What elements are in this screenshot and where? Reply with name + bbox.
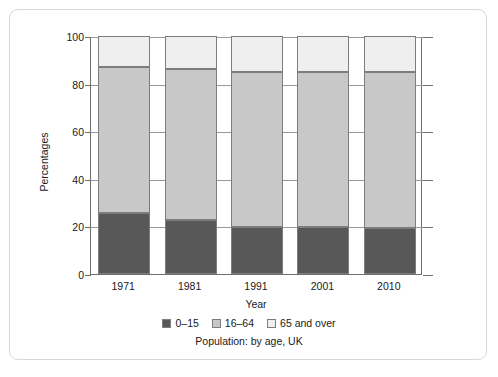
y-axis-tick-label: 0: [20, 269, 84, 281]
legend-swatch-icon: [212, 319, 221, 328]
legend-item: 65 and over: [267, 317, 335, 329]
bar-2010: [364, 36, 416, 274]
y-axis-tick-right: [423, 85, 433, 86]
legend-swatch-icon: [162, 319, 171, 328]
y-axis-tick: [85, 37, 91, 38]
y-axis-tick-right: [423, 132, 433, 133]
legend-item: 0–15: [162, 317, 198, 329]
bar-segment: [364, 72, 416, 228]
y-axis-tick: [85, 275, 91, 276]
bar-segment: [165, 220, 217, 274]
y-axis-tick-label: 100: [20, 31, 84, 43]
y-axis-tick-right: [423, 227, 433, 228]
legend-label: 0–15: [175, 317, 198, 329]
chart-card: Percentages 020406080100 197119811991200…: [9, 9, 487, 360]
plot-area: [90, 37, 422, 275]
y-axis-tick-label: 40: [20, 174, 84, 186]
bar-1971: [98, 36, 150, 274]
legend-label: 65 and over: [280, 317, 335, 329]
bar-segment: [297, 36, 349, 72]
x-axis-title: Year: [90, 298, 422, 310]
legend-item: 16–64: [212, 317, 254, 329]
bar-segment: [231, 36, 283, 72]
y-axis-tick-right: [423, 180, 433, 181]
bar-segment: [297, 227, 349, 274]
chart-figure: Percentages 020406080100 197119811991200…: [10, 10, 488, 361]
y-axis-tick-right: [423, 275, 433, 276]
bar-2001: [297, 36, 349, 274]
y-axis-tick: [85, 227, 91, 228]
bar-segment: [231, 72, 283, 227]
y-axis-tick: [85, 132, 91, 133]
chart-caption: Population: by age, UK: [10, 335, 488, 347]
bar-segment: [364, 36, 416, 72]
y-axis-tick-label: 20: [20, 221, 84, 233]
bar-segment: [297, 72, 349, 227]
chart-legend: 0–1516–6465 and over: [10, 317, 488, 329]
bar-segment: [98, 36, 150, 67]
bar-segment: [165, 69, 217, 220]
legend-label: 16–64: [225, 317, 254, 329]
bar-segment: [98, 213, 150, 274]
y-axis-tick: [85, 180, 91, 181]
y-axis-tick-label: 80: [20, 79, 84, 91]
y-axis-tick: [85, 85, 91, 86]
bar-segment: [98, 67, 150, 213]
x-axis-tick-label: 2010: [349, 280, 429, 292]
bar-1981: [165, 36, 217, 274]
y-axis-tick-right: [423, 37, 433, 38]
legend-swatch-icon: [267, 319, 276, 328]
y-axis-tick-labels: 020406080100: [16, 37, 84, 275]
bar-1991: [231, 36, 283, 274]
bar-segment: [165, 36, 217, 69]
y-axis-tick-label: 60: [20, 126, 84, 138]
bar-segment: [231, 227, 283, 274]
bar-segment: [364, 228, 416, 274]
